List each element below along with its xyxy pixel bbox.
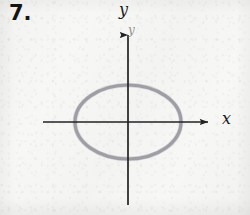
y-axis-label-secondary: y <box>128 24 135 36</box>
coordinate-plot <box>0 0 250 215</box>
y-axis-label: y <box>119 2 128 18</box>
figure-container: 7. y y x <box>0 0 250 215</box>
x-axis-label: x <box>222 111 231 127</box>
